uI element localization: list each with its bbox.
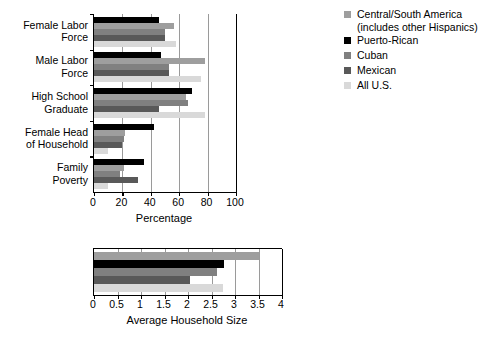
legend-item-mexican: Mexican	[344, 64, 396, 77]
x-axis-tick-label: 20	[106, 196, 136, 208]
legend-item-label: Mexican	[357, 64, 396, 77]
category-label: Male Labor Force	[0, 54, 88, 79]
legend-item-label: All U.S.	[357, 79, 392, 92]
bar	[94, 112, 205, 118]
bar	[94, 260, 224, 268]
percentage-bar-chart: Female Labor Force Male Labor Force High…	[0, 0, 340, 232]
percentage-chart-plot-area	[93, 14, 236, 193]
legend-item-label: Cuban	[357, 49, 388, 62]
axis-right-edge	[236, 14, 237, 192]
y-axis-tick	[90, 121, 94, 122]
legend-item-all_us: All U.S.	[344, 79, 392, 92]
axis-right-edge	[282, 249, 283, 295]
x-axis-tick-label: 100	[220, 196, 250, 208]
bar	[94, 276, 190, 284]
x-axis-tick-label: 0	[78, 196, 108, 208]
legend-swatch-icon	[344, 67, 351, 74]
category-label: Female Labor Force	[0, 19, 88, 44]
legend-item-cuban: Cuban	[344, 49, 388, 62]
category-label: Family Poverty	[0, 161, 88, 186]
legend-item-label: Central/South America (includes other Hi…	[357, 8, 478, 33]
percentage-chart-xaxis-title: Percentage	[93, 212, 235, 224]
category-label: Female Head of Household	[0, 126, 88, 151]
x-axis-tick-label: 40	[135, 196, 165, 208]
y-axis-tick	[90, 85, 94, 86]
legend-swatch-icon	[344, 11, 351, 18]
bar	[94, 148, 108, 154]
bar	[94, 268, 217, 276]
household-size-chart-plot-area	[93, 248, 282, 296]
x-axis-tick-label: 80	[192, 196, 222, 208]
gridline	[208, 14, 209, 192]
bar	[94, 183, 108, 189]
household-size-chart-xaxis-title: Average Household Size	[93, 314, 281, 326]
x-axis-tick-label: 60	[163, 196, 193, 208]
y-axis-tick	[90, 14, 94, 15]
household-size-bar-chart: Average Household Size 00.511.522.533.54	[0, 240, 340, 349]
legend-swatch-icon	[344, 82, 351, 89]
y-axis-tick	[90, 50, 94, 51]
bar	[94, 284, 223, 292]
legend-item-label: Puerto-Rican	[357, 34, 418, 47]
bar	[94, 76, 201, 82]
y-axis-tick	[90, 156, 94, 157]
legend-swatch-icon	[344, 52, 351, 59]
legend-item-central_south_america: Central/South America (includes other Hi…	[344, 8, 478, 33]
legend-swatch-icon	[344, 37, 351, 44]
legend-item-puerto_rican: Puerto-Rican	[344, 34, 418, 47]
x-axis-tick-label: 4	[266, 298, 296, 310]
category-label: High School Graduate	[0, 90, 88, 115]
bar	[94, 41, 176, 47]
gridline	[259, 249, 260, 295]
percentage-chart-category-labels: Female Labor Force Male Labor Force High…	[0, 14, 88, 192]
bar	[94, 252, 259, 260]
